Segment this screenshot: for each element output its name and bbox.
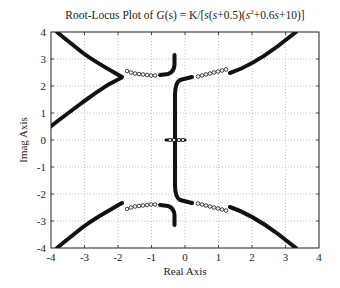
y-tick-labels: 4 3 2 1 0 -1 -2 -3 -4	[37, 26, 47, 254]
svg-text:0: 0	[182, 251, 188, 263]
root-locus-plot: -4 -3 -2 -1 0 1 2 3 4 4 3 2 1 0 -1 -2 -3…	[0, 0, 340, 288]
x-tick-labels: -4 -3 -2 -1 0 1 2 3 4	[46, 251, 322, 263]
x-axis-label: Real Axis	[163, 265, 206, 277]
locus-branch-upper-left-far	[57, 32, 122, 77]
locus-branch-upper-left-near-pole	[160, 55, 175, 75]
locus-branch-upper-right-far	[230, 32, 296, 73]
svg-text:0: 0	[41, 134, 47, 146]
locus-branch-lower-right-near	[175, 140, 192, 203]
svg-text:-1: -1	[147, 251, 156, 263]
svg-text:-3: -3	[80, 251, 90, 263]
svg-text:-3: -3	[37, 215, 47, 227]
svg-text:2: 2	[41, 80, 47, 92]
svg-text:4: 4	[41, 26, 47, 38]
locus-branch-lower-left-near-pole	[160, 205, 175, 225]
svg-text:1: 1	[216, 251, 222, 263]
locus-branch-upper-right-near	[175, 77, 192, 140]
svg-text:4: 4	[316, 251, 322, 263]
svg-text:-1: -1	[37, 161, 46, 173]
svg-text:1: 1	[41, 107, 47, 119]
locus-branch-lower-right-far	[230, 207, 296, 248]
svg-text:2: 2	[249, 251, 255, 263]
svg-text:-2: -2	[113, 251, 122, 263]
svg-text:-4: -4	[37, 242, 47, 254]
locus-branch-upper-left-asymptote	[40, 78, 121, 135]
y-axis-label: Imag Axis	[17, 117, 29, 163]
svg-text:-4: -4	[46, 251, 56, 263]
svg-text:-2: -2	[37, 188, 46, 200]
svg-text:3: 3	[283, 251, 289, 263]
svg-text:3: 3	[41, 53, 47, 65]
locus-branch-lower-left-far	[57, 203, 122, 248]
